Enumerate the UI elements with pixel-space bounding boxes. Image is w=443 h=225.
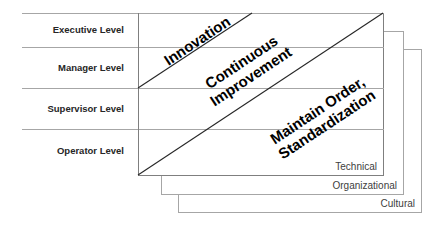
- diagram-canvas: Cultural Organizational Technical Execut…: [0, 0, 443, 225]
- layer-label-technical: Technical: [335, 161, 377, 172]
- level-label-supervisor: Supervisor Level: [14, 103, 124, 114]
- level-label-executive: Executive Level: [14, 24, 124, 35]
- row-line-top: [22, 13, 384, 14]
- layer-label-cultural: Cultural: [381, 198, 415, 209]
- level-label-manager: Manager Level: [14, 62, 124, 73]
- level-label-operator: Operator Level: [14, 145, 124, 156]
- layer-label-organizational: Organizational: [333, 180, 397, 191]
- row-line-1: [22, 47, 384, 48]
- column-divider: [138, 13, 139, 176]
